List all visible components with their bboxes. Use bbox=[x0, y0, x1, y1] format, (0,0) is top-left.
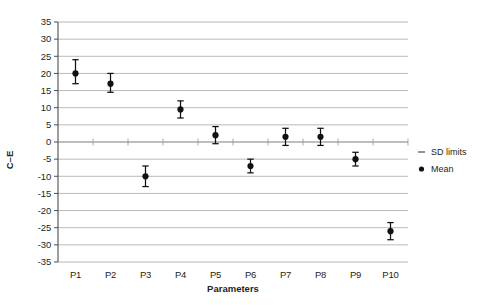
mean-marker bbox=[352, 156, 358, 162]
y-tick-label: -5 bbox=[43, 153, 51, 164]
y-tick-label: 0 bbox=[46, 136, 51, 147]
chart-svg: 35302520151050-5-10-15-20-25-30-35 P1P2P… bbox=[0, 0, 500, 308]
mean-marker bbox=[142, 173, 148, 179]
mean-marker bbox=[247, 163, 253, 169]
mean-marker bbox=[177, 106, 183, 112]
x-axis-title: Parameters bbox=[207, 283, 259, 294]
y-tick-label: 30 bbox=[41, 33, 51, 44]
mean-marker bbox=[317, 134, 323, 140]
y-tick-label: 10 bbox=[41, 102, 51, 113]
y-tick-label: 15 bbox=[41, 85, 51, 96]
y-tick-label: -10 bbox=[38, 171, 51, 182]
x-tick-label: P8 bbox=[315, 269, 326, 280]
mean-marker bbox=[387, 228, 393, 234]
x-tick-label: P3 bbox=[140, 269, 151, 280]
x-tick-label: P5 bbox=[210, 269, 221, 280]
mean-marker bbox=[107, 81, 113, 87]
x-tick-label: P6 bbox=[245, 269, 256, 280]
chart-figure: 35302520151050-5-10-15-20-25-30-35 P1P2P… bbox=[0, 0, 500, 308]
y-tick-label: 5 bbox=[46, 119, 51, 130]
y-axis-title: C–E bbox=[4, 151, 15, 169]
y-tick-label: -30 bbox=[38, 239, 51, 250]
x-tick-label: P1 bbox=[70, 269, 81, 280]
y-tick-label: -25 bbox=[38, 222, 51, 233]
y-tick-label: -20 bbox=[38, 205, 51, 216]
mean-marker bbox=[282, 134, 288, 140]
mean-marker bbox=[72, 70, 78, 76]
legend-dot-icon bbox=[419, 166, 424, 171]
y-tick-label: 20 bbox=[41, 68, 51, 79]
y-tick-label: 35 bbox=[41, 16, 51, 27]
mean-marker bbox=[212, 132, 218, 138]
x-tick-label: P4 bbox=[175, 269, 186, 280]
y-tick-label: -15 bbox=[38, 188, 51, 199]
y-tick-label: 25 bbox=[41, 51, 51, 62]
x-tick-label: P9 bbox=[350, 269, 361, 280]
x-tick-label: P10 bbox=[382, 269, 398, 280]
x-tick-label: P7 bbox=[280, 269, 291, 280]
legend-label: Mean bbox=[431, 164, 454, 174]
x-tick-label: P2 bbox=[105, 269, 116, 280]
y-tick-label: -35 bbox=[38, 256, 51, 267]
legend-label: SD limits bbox=[431, 147, 467, 157]
